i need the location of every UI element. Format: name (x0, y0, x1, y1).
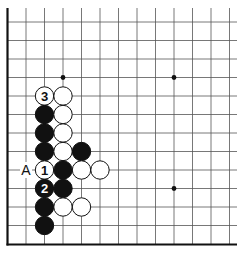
stones: 312 (35, 87, 109, 235)
stone-circle (54, 142, 72, 160)
stone-circle (54, 161, 72, 179)
go-board: A 312 (0, 0, 247, 253)
white-stone: 3 (35, 87, 53, 105)
move-number-1: 1 (41, 163, 48, 178)
white-stone (72, 198, 90, 216)
white-stone (91, 161, 109, 179)
white-stone (54, 198, 72, 216)
stone-circle (91, 161, 109, 179)
stone-circle (54, 87, 72, 105)
stone-circle (35, 105, 53, 123)
stone-circle (54, 105, 72, 123)
black-stone (35, 198, 53, 216)
white-stone (72, 161, 90, 179)
board-marks: A (20, 162, 32, 178)
black-stone (35, 124, 53, 142)
move-number-3: 3 (41, 89, 48, 104)
white-stone (54, 87, 72, 105)
star-point (172, 186, 177, 191)
stone-circle (54, 198, 72, 216)
stone-circle (72, 161, 90, 179)
black-stone (54, 179, 72, 197)
stone-circle (72, 198, 90, 216)
mark-label-a: A (21, 162, 31, 178)
stone-circle (54, 179, 72, 197)
black-stone: 2 (35, 179, 53, 197)
black-stone (72, 142, 90, 160)
star-point (61, 75, 66, 80)
white-stone (54, 105, 72, 123)
star-point (172, 75, 177, 80)
stone-circle (35, 216, 53, 234)
stone-circle (35, 198, 53, 216)
stone-circle (35, 124, 53, 142)
black-stone (35, 216, 53, 234)
white-stone: 1 (35, 161, 53, 179)
move-number-2: 2 (41, 181, 48, 196)
black-stone (35, 105, 53, 123)
stone-circle (35, 142, 53, 160)
white-stone (54, 142, 72, 160)
black-stone (35, 142, 53, 160)
black-stone (54, 161, 72, 179)
stone-circle (54, 124, 72, 142)
white-stone (54, 124, 72, 142)
stone-circle (72, 142, 90, 160)
